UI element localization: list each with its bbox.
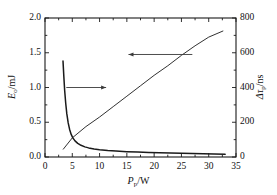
y-left-axis-unit: /mJ [6,75,17,89]
y-left-axis-subscript: o [11,89,19,93]
y-right-axis-symbol: Δτ [254,90,265,99]
arrow-to-right-axis-head [128,52,133,56]
y-right-tick-label: 0 [240,152,274,162]
x-tick-label: 15 [112,162,142,172]
arrow-to-left-axis-head [101,85,106,89]
y-right-axis-unit: /ns [254,75,265,87]
x-tick-label: 30 [194,162,224,172]
annotations-group [66,52,192,89]
x-tick-label: 5 [57,162,87,172]
x-tick-label: 35 [221,162,251,172]
x-tick-label: 25 [166,162,196,172]
y-left-tick-label: 2.0 [3,13,41,23]
y-right-axis-title: Δτp/ns [255,32,267,142]
x-axis-unit: /W [137,175,149,186]
x-tick-label: 20 [139,162,169,172]
y-left-tick-label: 0.0 [3,152,41,162]
x-tick-label: 10 [85,162,115,172]
x-axis-title: Pp/W [0,176,277,188]
y-right-tick-label: 800 [240,13,274,23]
series-line-0 [63,31,223,149]
series-line-1 [63,61,225,154]
series-group [63,31,225,154]
y-left-axis-symbol: E [6,93,17,99]
x-tick-label: 0 [30,162,60,172]
y-left-axis-title: Eo/mJ [7,32,19,142]
y-right-axis-subscript: p [259,86,267,90]
chart-figure: 05101520253035 0.00.51.01.52.0 020040060… [0,0,277,195]
